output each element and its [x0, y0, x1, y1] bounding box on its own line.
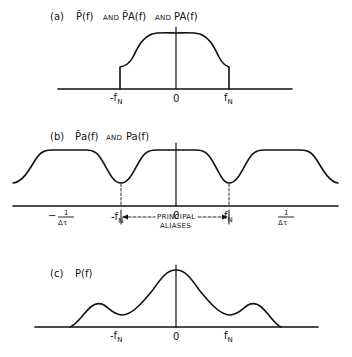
svg-text:1: 1 [64, 209, 69, 217]
panel-a-letter: (a) [50, 11, 64, 22]
panel-b-title-pa-tilde: P̃a(f) [75, 130, 99, 142]
svg-text:−: − [48, 210, 56, 221]
panel-c-tick-pos-fn: fN [224, 330, 233, 344]
panel-b-title-and: AND [106, 134, 122, 142]
panel-b-tick-neg-fn: -fN [111, 211, 123, 225]
svg-text:Δτ: Δτ [58, 219, 68, 227]
panel-a-tick-zero: 0 [173, 93, 179, 104]
panel-a-title-and-1: AND [103, 14, 119, 22]
panel-c-letter: (c) [50, 268, 63, 279]
svg-text:1: 1 [284, 209, 289, 217]
principal-aliases-label-line2: ALIASES [160, 222, 191, 230]
panel-c-tick-zero: 0 [173, 331, 179, 342]
panel-b-tick-neg-inv-dt: − 1 Δτ [48, 209, 74, 227]
panel-a-curve [120, 33, 229, 89]
panel-a-title-and-2: AND [155, 14, 171, 22]
panel-c-title: P(f) [75, 268, 92, 279]
panel-a-tick-neg-fn: -fN [110, 92, 122, 106]
figure: (a) P̃(f) AND P̃A(f) AND PA(f) -fN 0 fN … [0, 0, 352, 357]
panel-a-title-pa: PA(f) [174, 11, 198, 22]
panel-b-tick-pos-fn: fN [224, 210, 233, 224]
panel-b-tick-pos-inv-dt: 1 Δτ [278, 209, 294, 227]
svg-text:Δτ: Δτ [278, 219, 288, 227]
panel-a-tick-pos-fn: fN [224, 92, 233, 106]
panel-b-letter: (b) [50, 131, 64, 142]
panel-c-tick-neg-fn: -fN [110, 330, 122, 344]
panel-a-title-pa-tilde: P̃A(f) [122, 10, 146, 22]
panel-b-title-pa: Pa(f) [126, 131, 149, 142]
principal-aliases-label-line1: PRINCIPAL [157, 213, 196, 221]
panel-a-title-p-tilde: P̃(f) [76, 10, 93, 22]
